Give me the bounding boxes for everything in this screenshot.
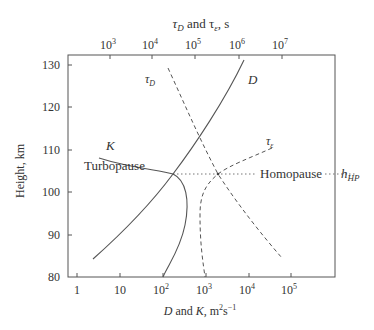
svg-text:100: 100 — [42, 185, 60, 199]
svg-text:80: 80 — [48, 270, 60, 284]
svg-text:110: 110 — [42, 143, 60, 157]
curve-K — [99, 158, 187, 277]
svg-text:105: 105 — [281, 282, 297, 297]
label-D: D — [247, 72, 258, 87]
top-tick-label: 105 — [185, 37, 201, 52]
top-axis — [110, 55, 282, 59]
top-axis-title: τD and τε, s — [173, 16, 230, 33]
chart: τD and τε, s 103 104 105 106 107 130 120… — [0, 0, 374, 330]
y-axis-title: Height, km — [13, 143, 27, 198]
top-tick-label: 103 — [100, 37, 116, 52]
svg-text:104: 104 — [239, 282, 255, 297]
top-tick-label: 107 — [272, 37, 288, 52]
label-hHP: hHP — [341, 166, 360, 183]
svg-text:102: 102 — [153, 282, 169, 297]
top-tick-labels: 103 104 105 106 107 — [100, 37, 288, 52]
label-tau-epsilon: τε — [266, 134, 274, 150]
intersection-marker — [217, 173, 220, 176]
label-K: K — [105, 138, 116, 153]
svg-text:10: 10 — [114, 283, 126, 297]
top-tick-label: 104 — [142, 37, 158, 52]
svg-text:120: 120 — [42, 100, 60, 114]
label-turbopause: Turbopause — [84, 158, 145, 173]
bottom-axis-title: D and K, m2s−1 — [163, 303, 237, 318]
label-tau-D: τD — [145, 72, 155, 88]
top-tick-label: 106 — [229, 37, 245, 52]
bottom-tick-labels: 1 10 102 103 104 105 — [74, 282, 297, 297]
svg-text:1: 1 — [74, 283, 80, 297]
left-axis — [68, 65, 72, 235]
svg-text:90: 90 — [48, 228, 60, 242]
label-homopause: Homopause — [260, 166, 322, 181]
svg-text:103: 103 — [196, 282, 212, 297]
bottom-axis — [77, 273, 291, 277]
svg-text:130: 130 — [42, 58, 60, 72]
left-tick-labels: 130 120 110 100 90 80 — [42, 58, 60, 284]
